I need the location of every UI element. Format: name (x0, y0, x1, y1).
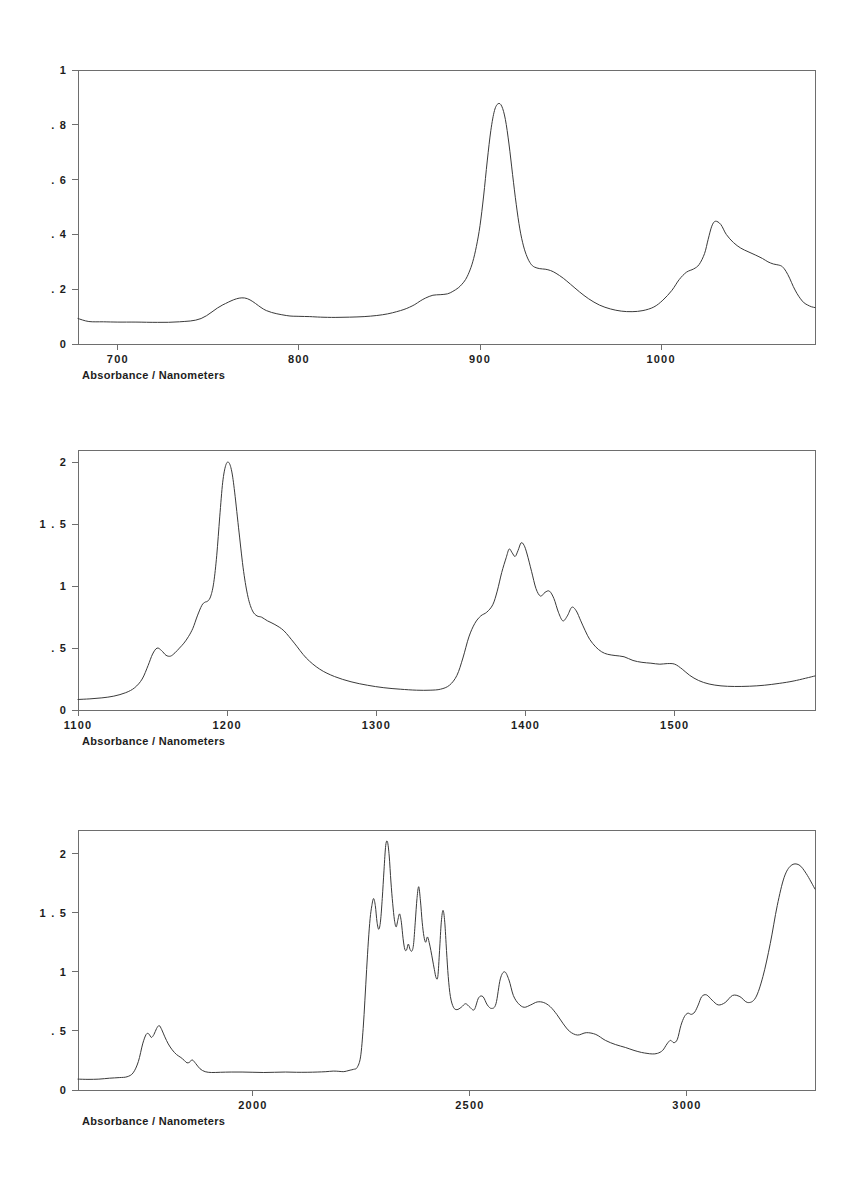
x-tick-label: 1400 (511, 719, 540, 731)
spectra-figure: 70080090010000. 2. 4. 6. 81Absorbance / … (0, 0, 855, 1197)
x-tick-label: 1500 (660, 719, 689, 731)
x-tick-label: 1100 (64, 719, 93, 731)
x-tick-label: 2500 (455, 1099, 484, 1111)
y-tick-label: 1 (60, 966, 67, 978)
y-tick-label: 1 (60, 64, 67, 76)
y-tick-label: . 2 (51, 283, 67, 295)
axis-caption: Absorbance / Nanometers (82, 1115, 225, 1127)
spectrum-plot-2: 110012001300140015000. 511 . 52Absorbanc… (0, 420, 855, 780)
axis-caption: Absorbance / Nanometers (82, 369, 225, 381)
y-tick-label: . 6 (51, 174, 67, 186)
y-tick-label: 0 (60, 704, 67, 716)
spectrum-trace (78, 462, 815, 699)
x-tick-label: 2000 (238, 1099, 267, 1111)
x-tick-label: 1000 (646, 353, 675, 365)
y-tick-label: 1 . 5 (40, 907, 67, 919)
x-tick-label: 3000 (672, 1099, 701, 1111)
y-tick-label: . 5 (51, 1025, 67, 1037)
y-tick-label: 1 (60, 580, 67, 592)
spectrum-trace (78, 103, 815, 322)
spectrum-plot-3: 2000250030000. 511 . 52Absorbance / Nano… (0, 800, 855, 1180)
spectrum-panel-1: 70080090010000. 2. 4. 6. 81Absorbance / … (0, 40, 855, 400)
x-tick-label: 900 (469, 353, 491, 365)
y-tick-label: . 4 (51, 228, 67, 240)
y-tick-label: 0 (60, 1084, 67, 1096)
x-tick-label: 800 (288, 353, 310, 365)
spectrum-panel-3: 2000250030000. 511 . 52Absorbance / Nano… (0, 800, 855, 1180)
y-tick-label: 1 . 5 (40, 518, 67, 530)
x-tick-label: 700 (107, 353, 129, 365)
y-tick-label: . 8 (51, 119, 67, 131)
y-tick-label: 2 (60, 456, 67, 468)
x-tick-label: 1200 (213, 719, 242, 731)
y-tick-label: 0 (60, 338, 67, 350)
spectrum-trace (78, 841, 815, 1079)
y-tick-label: 2 (60, 848, 67, 860)
spectrum-plot-1: 70080090010000. 2. 4. 6. 81Absorbance / … (0, 40, 855, 400)
y-tick-label: . 5 (51, 642, 67, 654)
axis-caption: Absorbance / Nanometers (82, 735, 225, 747)
spectrum-panel-2: 110012001300140015000. 511 . 52Absorbanc… (0, 420, 855, 780)
x-tick-label: 1300 (362, 719, 391, 731)
